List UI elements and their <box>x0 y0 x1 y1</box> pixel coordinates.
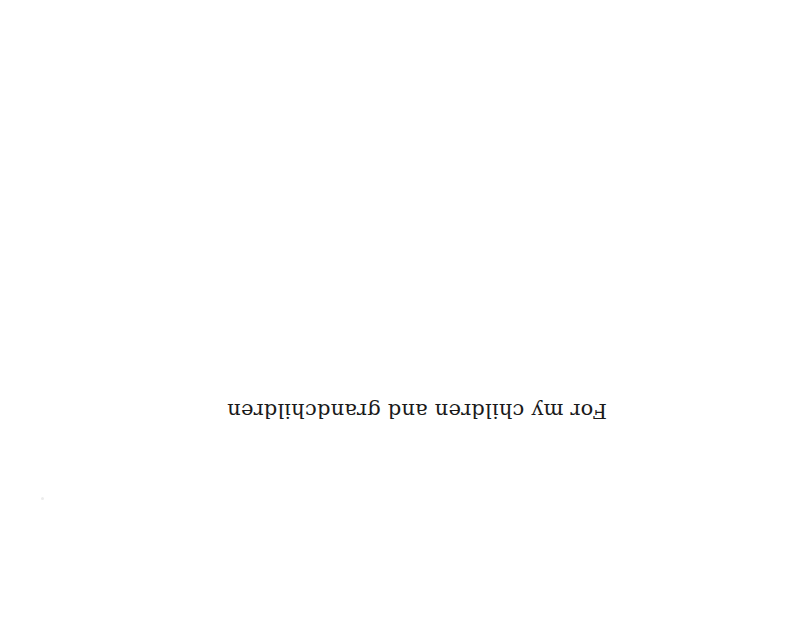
scan-speck <box>41 497 44 500</box>
dedication-text: For my children and grandchildren <box>219 394 615 428</box>
book-page: For my children and grandchildren <box>0 0 785 624</box>
